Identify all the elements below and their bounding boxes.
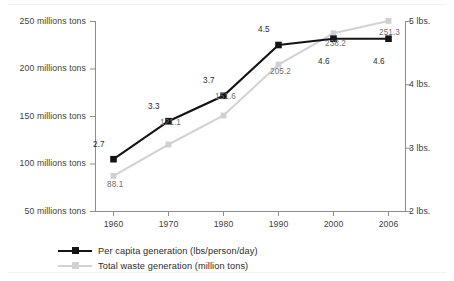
point-label-per-capita-2006: 4.6 [373,57,385,66]
point-label-total-waste-2006: 251.3 [379,28,400,37]
point-label-per-capita-1970: 3.3 [148,102,160,111]
point-label-per-capita-2000: 4.6 [318,57,330,66]
x-tick-label-1970: 1970 [147,219,191,229]
x-tick-label-1960: 1960 [92,219,136,229]
x-tick-label-1980: 1980 [202,219,246,229]
legend-label-per-capita-generation: Per capita generation (lbs/person/day) [98,246,258,256]
legend-item-total-waste-generation[interactable]: Total waste generation (million tons) [58,258,398,273]
point-label-total-waste-2000: 238.2 [325,39,346,48]
point-label-total-waste-1990: 205.2 [270,67,291,76]
y-right-tick-label-2: 2 lbs. [409,206,430,216]
y-left-tick-label-200: 200 millions tons [2,63,86,73]
y-left-tick-label-150: 150 millions tons [2,111,86,121]
point-label-total-waste-1960: 88.1 [107,180,123,189]
y-left-tick-label-100: 100 millions tons [2,158,86,168]
chart-plot-area [0,0,454,281]
series-line-total-waste-generation [114,21,389,176]
y-left-tick-label-250: 250 millions tons [2,16,86,26]
legend-item-per-capita-generation[interactable]: Per capita generation (lbs/person/day) [58,243,398,258]
x-tick-label-1990: 1990 [257,219,301,229]
chart-figure: 250 millions tons 200 millions tons 150 … [0,0,454,281]
point-label-total-waste-1980: 151.6 [215,92,236,101]
series-line-per-capita-generation [114,39,389,160]
point-label-per-capita-1980: 3.7 [203,76,215,85]
legend-label-total-waste-generation: Total waste generation (million tons) [98,261,248,271]
x-tick-label-2006: 2006 [367,219,411,229]
legend-swatch-line-icon-total-waste [58,260,92,272]
point-label-per-capita-1990: 4.5 [258,25,270,34]
series-markers-per-capita-generation [110,35,392,162]
y-right-tick-label-5: 5 lbs. [409,16,430,26]
y-right-tick-label-3: 3 lbs. [409,143,430,153]
legend-swatch-line-icon-per-capita [58,245,92,257]
chart-legend: Per capita generation (lbs/person/day) T… [58,243,398,273]
point-label-total-waste-1970: 121.1 [160,118,181,127]
point-label-per-capita-1960: 2.7 [93,140,105,149]
y-left-tick-label-50: 50 millions tons [2,206,86,216]
y-right-tick-label-4: 4 lbs. [409,79,430,89]
x-tick-label-2000: 2000 [312,219,356,229]
